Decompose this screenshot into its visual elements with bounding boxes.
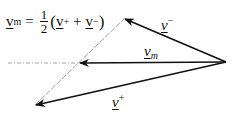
label-v-minus-base: v	[161, 17, 168, 33]
v-minus-arrow	[125, 19, 226, 62]
label-v-m: vm	[144, 44, 158, 61]
formula-term1: v	[56, 13, 64, 30]
label-v-plus-base: v	[112, 94, 119, 110]
label-v-minus: v−	[161, 16, 173, 33]
formula-lhs-sub: m	[14, 16, 22, 27]
label-v-minus-sup: −	[168, 15, 174, 26]
fraction-denominator: 2	[41, 22, 48, 35]
formula-fraction: 1 2	[40, 8, 49, 35]
label-v-m-sub: m	[151, 50, 158, 61]
label-v-plus: v+	[112, 93, 124, 110]
mean-velocity-formula: vm = 1 2 ( v+ + v− )	[6, 8, 104, 35]
formula-lhs: v	[6, 13, 14, 30]
formula-close-paren: )	[99, 12, 105, 32]
formula-term1-sup: +	[63, 16, 69, 27]
v-m-arrow	[80, 62, 226, 63]
formula-term2: v	[86, 13, 94, 30]
label-v-plus-sup: +	[119, 92, 125, 103]
fraction-numerator: 1	[40, 8, 49, 22]
formula-plus: +	[73, 13, 81, 30]
v-plus-arrow	[36, 62, 226, 105]
label-v-m-base: v	[144, 43, 151, 59]
formula-equals: =	[25, 13, 33, 30]
